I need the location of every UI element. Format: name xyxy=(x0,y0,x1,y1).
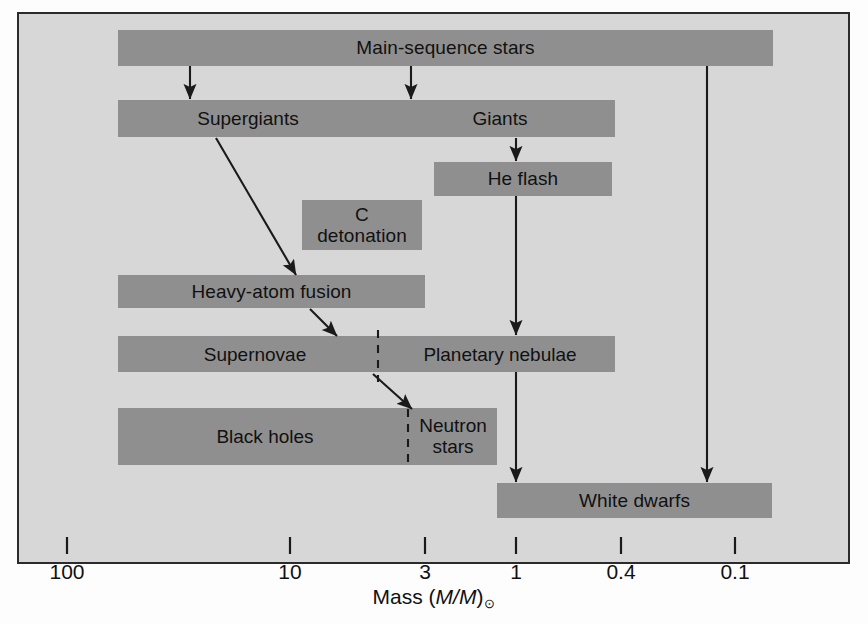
arrow-supergiants-to-heavy-atom-fusion xyxy=(216,138,296,275)
axis-tick-label-5: 0.1 xyxy=(720,560,749,584)
sun-symbol-icon: ⊙ xyxy=(483,596,495,611)
axis-tick-label-0: 100 xyxy=(49,560,84,584)
stellar-evolution-figure: Main-sequence stars Supergiants Giants H… xyxy=(0,0,868,624)
plot-area: Main-sequence stars Supergiants Giants H… xyxy=(0,0,868,624)
axis-title-m-numerator: M xyxy=(436,585,454,608)
axis-title: Mass (M/M)⊙ xyxy=(0,585,868,611)
axis-tick-label-1: 10 xyxy=(278,560,301,584)
transition-arrows xyxy=(0,0,868,624)
axis-ticks xyxy=(67,537,735,554)
axis-tick-label-3: 1 xyxy=(510,560,522,584)
axis-title-prefix: Mass ( xyxy=(373,585,436,608)
arrow-heavy-atom-fusion-to-supernovae xyxy=(310,309,337,336)
axis-title-m-denominator: M xyxy=(459,585,477,608)
axis-tick-label-4: 0.4 xyxy=(606,560,635,584)
axis-tick-label-2: 3 xyxy=(419,560,431,584)
